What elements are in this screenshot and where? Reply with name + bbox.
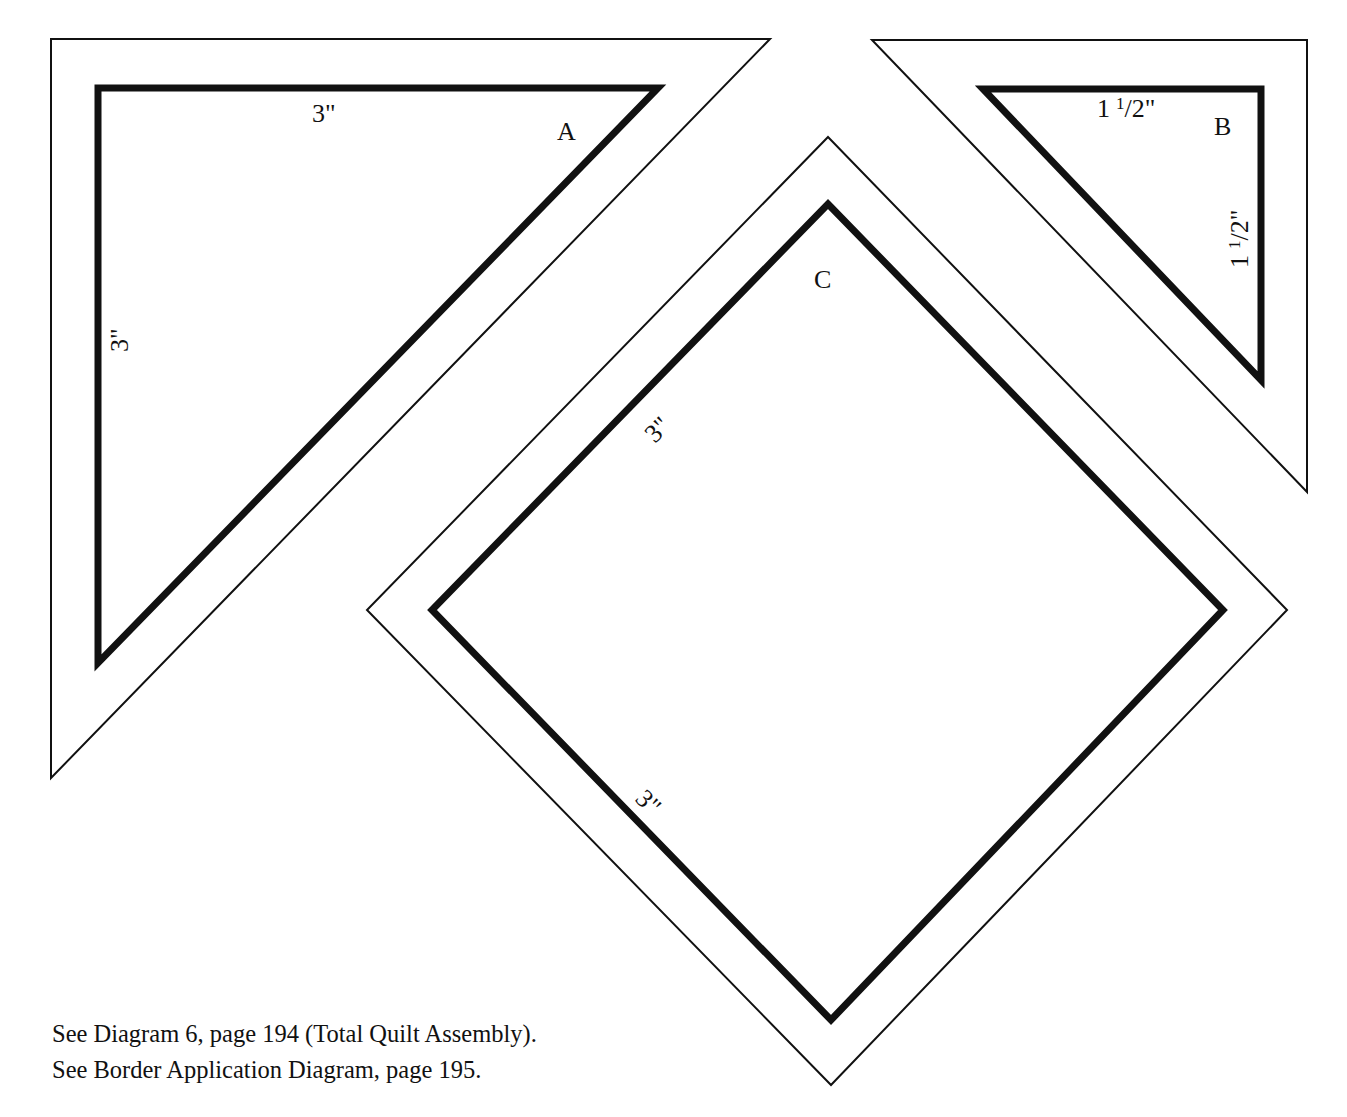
piece-a-cut-outline bbox=[98, 88, 658, 663]
piece-c-upper-left-dimension: 3" bbox=[639, 411, 676, 448]
piece-a-letter: A bbox=[557, 117, 576, 146]
piece-a-seam-outline bbox=[51, 39, 770, 778]
piece-b-template: 11/2" B 11/2" bbox=[872, 40, 1307, 492]
caption-diagram-6: See Diagram 6, page 194 (Total Quilt Ass… bbox=[52, 1016, 537, 1052]
piece-b-top-dimension: 11/2" bbox=[1097, 94, 1155, 123]
caption-border-application: See Border Application Diagram, page 195… bbox=[52, 1052, 537, 1088]
piece-a-top-dimension: 3" bbox=[312, 99, 336, 128]
piece-a-left-dimension: 3" bbox=[105, 328, 134, 352]
piece-c-template: C 3" 3" bbox=[367, 137, 1287, 1085]
piece-c-cut-outline bbox=[432, 204, 1223, 1020]
piece-c-letter: C bbox=[814, 265, 831, 294]
reference-captions: See Diagram 6, page 194 (Total Quilt Ass… bbox=[52, 1016, 537, 1088]
quilt-template-diagram: 3" A 3" 11/2" B 11/2" C 3" 3" bbox=[0, 0, 1347, 1117]
piece-b-letter: B bbox=[1214, 112, 1231, 141]
piece-b-right-dimension: 11/2" bbox=[1225, 210, 1254, 268]
piece-a-template: 3" A 3" bbox=[51, 39, 770, 778]
